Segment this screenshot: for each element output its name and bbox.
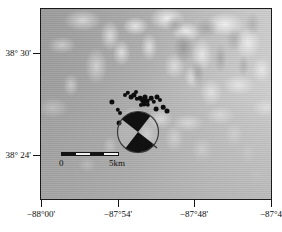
raster-scanline-texture [41,9,271,199]
focal-mechanism-beachball [116,110,160,154]
y-axis-tick [33,155,40,156]
y-axis-label: 38° 30' [6,48,31,58]
scale-bar-start-label: 0 [59,157,64,169]
epicenter-dot [134,90,138,94]
scale-bar-segment [90,153,104,155]
y-axis-label: 38° 24' [6,150,31,160]
scale-bar-segments [61,152,119,156]
scale-bar-labels: 0 5km [61,157,119,169]
epicenter-dot [165,109,170,114]
x-axis-tick [271,200,272,207]
x-axis-tick [194,200,195,207]
scale-bar-segment [62,153,76,155]
scale-bar: 0 5km [61,152,119,169]
epicenter-dot [158,98,162,102]
y-axis-tick [33,53,40,54]
scale-bar-end-label: 5km [109,157,125,169]
map-figure: 0 5km 38° 30'38° 24'−88°00'−87°54'−87°48… [0,0,282,232]
x-axis-tick [41,200,42,207]
x-axis-tick [118,200,119,207]
scale-bar-segment [76,153,90,155]
x-axis-label: −87°48' [180,209,208,219]
x-axis-label: −87°54' [104,209,132,219]
x-axis-label: −87°4 [260,209,282,219]
x-axis-label: −88°00' [27,209,55,219]
scale-bar-segment [104,153,118,155]
map-canvas[interactable]: 0 5km [40,8,272,200]
